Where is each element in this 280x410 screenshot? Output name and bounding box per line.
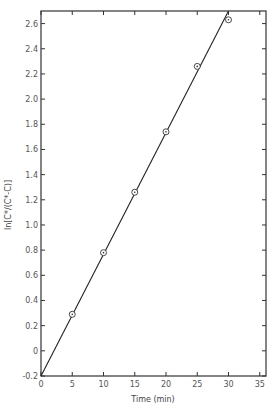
y-tick-label: -0.2: [22, 372, 38, 381]
x-tick-label: 5: [70, 380, 75, 389]
y-tick-label: 2.0: [25, 95, 38, 104]
y-tick-label: 1.2: [25, 196, 38, 205]
y-tick-label: 1.4: [25, 171, 38, 180]
x-tick-label: 30: [223, 380, 233, 389]
data-point-marker: [163, 129, 169, 135]
y-tick-label: 1.8: [25, 120, 38, 129]
y-tick-label: 2.4: [25, 45, 38, 54]
y-tick-label: 0.8: [25, 246, 38, 255]
x-tick-label: 0: [38, 380, 43, 389]
y-axis-ticks: -0.200.20.40.60.81.01.21.41.61.82.02.22.…: [22, 20, 266, 381]
y-tick-label: 2.2: [25, 70, 38, 79]
x-tick-label: 35: [255, 380, 265, 389]
x-axis-ticks: 05101520253035: [38, 11, 264, 389]
data-point-marker: [194, 63, 200, 69]
x-tick-label: 20: [161, 380, 171, 389]
y-tick-label: 0.6: [25, 271, 38, 280]
x-tick-label: 25: [192, 380, 202, 389]
x-tick-label: 15: [130, 380, 140, 389]
x-tick-label: 10: [98, 380, 108, 389]
chart: 05101520253035 -0.200.20.40.60.81.01.21.…: [0, 0, 280, 410]
y-tick-label: 2.6: [25, 20, 38, 29]
y-tick-label: 0.4: [25, 296, 38, 305]
data-point-marker: [132, 189, 138, 195]
data-points: [69, 17, 231, 318]
y-tick-label: 0: [33, 347, 38, 356]
y-tick-label: 1.0: [25, 221, 38, 230]
data-point-marker: [226, 17, 232, 23]
y-tick-label: 1.6: [25, 145, 38, 154]
data-point-marker: [69, 311, 75, 317]
plot-frame: [41, 11, 266, 376]
y-tick-label: 0.2: [25, 322, 38, 331]
x-axis-label: Time (min): [130, 395, 174, 404]
data-point-marker: [101, 250, 107, 256]
y-axis-label: ln[C*/(C*-C)]: [4, 180, 13, 230]
